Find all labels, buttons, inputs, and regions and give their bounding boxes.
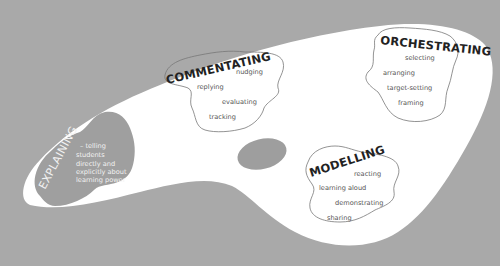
modelling-item: reacting (354, 170, 381, 178)
modelling-item: demonstrating (335, 199, 383, 207)
explaining-line: directly and (76, 160, 115, 168)
commentating-item: evaluating (222, 98, 257, 106)
modelling-item: learning aloud (319, 184, 366, 192)
explaining-line: explicitly about (76, 168, 127, 176)
explaining-line: – telling (80, 142, 106, 150)
orchestrating-item: target-setting (387, 84, 432, 92)
palette-diagram: EXPLAINING – telling students directly a… (0, 0, 500, 266)
orchestrating-item: arranging (383, 69, 415, 77)
explaining-line: students (76, 151, 105, 159)
commentating-item: replying (197, 83, 224, 91)
commentating-item: tracking (209, 113, 236, 121)
orchestrating-item: selecting (405, 54, 435, 62)
modelling-item: sharing (327, 214, 352, 222)
diagram-canvas: EXPLAINING – telling students directly a… (0, 0, 500, 266)
orchestrating-item: framing (398, 99, 424, 107)
explaining-line: learning power (76, 176, 126, 184)
commentating-item: nudging (236, 68, 263, 76)
